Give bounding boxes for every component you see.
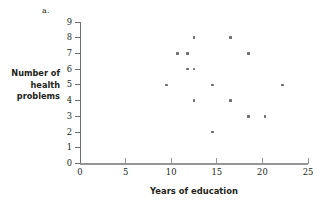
y-axis-tick-label: 7 (58, 48, 72, 58)
data-point (229, 36, 232, 39)
x-axis-line (80, 163, 308, 165)
x-axis-tick-label: 0 (69, 167, 91, 177)
data-point (281, 84, 284, 87)
y-axis-tick (75, 22, 80, 23)
x-axis-tick (125, 158, 126, 164)
x-axis-tick-label: 25 (297, 167, 319, 177)
y-axis-tick (75, 37, 80, 38)
data-point (193, 68, 196, 71)
x-axis-tick (171, 158, 172, 164)
data-point (247, 115, 250, 118)
x-axis-tick (216, 158, 217, 164)
data-point (211, 131, 214, 134)
y-axis-tick-label: 8 (58, 32, 72, 42)
data-point (211, 84, 214, 87)
y-axis-tick (75, 53, 80, 54)
x-axis-tick (262, 158, 263, 164)
x-axis-tick (308, 158, 309, 164)
x-axis-tick-label: 20 (251, 167, 273, 177)
y-axis-tick (75, 100, 80, 101)
y-axis-tick (75, 163, 80, 164)
y-axis-tick-label: 5 (58, 79, 72, 89)
data-point (165, 84, 168, 87)
y-axis-tick-label: 3 (58, 111, 72, 121)
y-axis-tick-label: 9 (58, 17, 72, 27)
x-axis-tick-label: 15 (206, 167, 228, 177)
plot-area: 01234567890510152025 (0, 0, 331, 208)
scatter-plot-figure: a. Number of health problems Years of ed… (0, 0, 331, 208)
y-axis-tick (75, 84, 80, 85)
y-axis-tick (75, 69, 80, 70)
data-point (193, 99, 196, 102)
data-point (193, 36, 196, 39)
data-point (247, 52, 250, 55)
y-axis-tick-label: 1 (58, 142, 72, 152)
y-axis-tick (75, 132, 80, 133)
y-axis-tick (75, 116, 80, 117)
x-axis-tick-label: 10 (160, 167, 182, 177)
y-axis-line (80, 22, 81, 164)
y-axis-tick-label: 2 (58, 127, 72, 137)
data-point (264, 115, 267, 118)
data-point (186, 52, 189, 55)
data-point (176, 52, 179, 55)
x-axis-tick-label: 5 (115, 167, 137, 177)
data-point (229, 99, 232, 102)
data-point (186, 68, 189, 71)
y-axis-tick (75, 147, 80, 148)
y-axis-tick-label: 4 (58, 95, 72, 105)
y-axis-tick-label: 6 (58, 64, 72, 74)
